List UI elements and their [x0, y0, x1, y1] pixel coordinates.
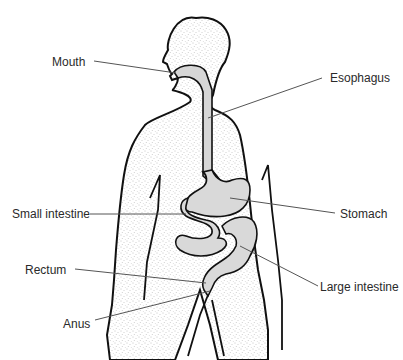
label-large-intestine: Large intestine — [320, 280, 399, 294]
digestive-system-diagram — [0, 0, 403, 360]
leader-esophagus — [208, 78, 322, 118]
label-anus: Anus — [63, 317, 90, 331]
label-rectum: Rectum — [25, 263, 66, 277]
label-small-intestine: Small intestine — [12, 207, 90, 221]
label-stomach: Stomach — [340, 207, 387, 221]
label-esophagus: Esophagus — [330, 71, 390, 85]
label-mouth: Mouth — [52, 55, 85, 69]
